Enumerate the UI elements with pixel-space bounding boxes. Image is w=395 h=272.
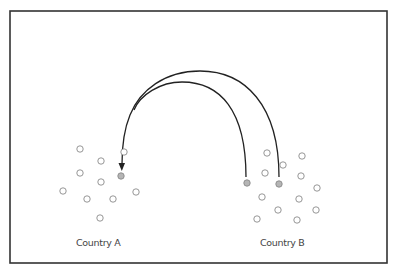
outer-migration-arc <box>122 71 279 177</box>
migrant-circle <box>276 181 282 187</box>
person-circle <box>77 146 83 152</box>
person-circle <box>275 207 281 213</box>
person-circle <box>254 216 260 222</box>
country-b-population <box>244 150 320 223</box>
person-circle <box>299 153 305 159</box>
person-circle <box>60 188 66 194</box>
person-circle <box>84 196 90 202</box>
person-circle <box>98 179 104 185</box>
country-b-label: Country B <box>260 237 305 248</box>
person-circle <box>280 162 286 168</box>
person-circle <box>133 189 139 195</box>
country-a-population <box>60 146 139 221</box>
migrant-circle <box>118 173 124 179</box>
country-a-label: Country A <box>76 237 121 248</box>
person-circle <box>97 215 103 221</box>
person-circle <box>313 207 319 213</box>
inner-migration-arc <box>134 82 246 177</box>
migrant-circle <box>244 180 250 186</box>
person-circle <box>98 158 104 164</box>
diagram-frame <box>10 11 387 263</box>
person-circle <box>314 185 320 191</box>
person-circle <box>262 170 268 176</box>
person-circle <box>294 217 300 223</box>
migration-diagram <box>0 0 395 272</box>
person-circle <box>296 196 302 202</box>
person-circle <box>121 149 127 155</box>
person-circle <box>298 173 304 179</box>
person-circle <box>259 194 265 200</box>
arrowhead-icon <box>119 163 126 171</box>
person-circle <box>264 150 270 156</box>
person-circle <box>110 196 116 202</box>
person-circle <box>77 170 83 176</box>
